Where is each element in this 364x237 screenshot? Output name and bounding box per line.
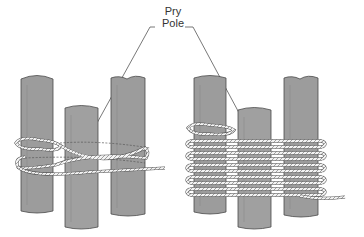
pole-left-3	[111, 76, 145, 216]
leader-lines	[80, 27, 261, 153]
pole-left-1	[21, 76, 53, 214]
panel-completed-wraps	[187, 76, 345, 230]
pry-pole-right	[238, 108, 271, 230]
lashing-diagram	[0, 0, 364, 237]
pry-pole-left	[65, 106, 98, 230]
pole-right-1	[194, 76, 226, 215]
panel-start-of-lashing	[16, 76, 165, 230]
